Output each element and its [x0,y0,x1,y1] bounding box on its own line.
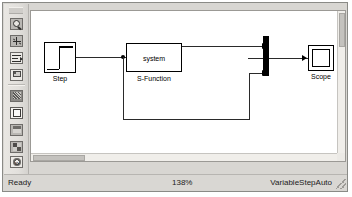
horizontal-scrollbar[interactable] [31,153,338,161]
vertical-scrollbar[interactable] [337,11,345,154]
toolbar-button-library-browser[interactable] [8,88,25,103]
toolbar-button-model-explorer[interactable] [8,67,25,82]
signal-feedback-across [123,119,250,120]
step-waveform-icon [45,43,75,72]
block-mux[interactable] [263,36,269,76]
toolbar-button-new-model[interactable] [8,105,25,120]
signal-mux-to-scope [248,58,308,59]
signal-step-to-junction [76,57,123,58]
alignment-icon [10,52,23,64]
zoom-level-text[interactable]: 138% [172,177,192,189]
block-label-scope: Scope [305,73,337,80]
scope-screen-icon [312,49,330,67]
block-parameters-icon [10,141,23,153]
arrowhead-scope-in [302,55,307,61]
window-frame: » [2,2,348,192]
block-s-function-text: system [127,54,181,61]
toolbar-separator [8,84,25,86]
signal-feedback-up [249,73,250,119]
toolbar-overflow-chevron[interactable]: » [8,156,25,171]
vertical-scrollbar-thumb[interactable] [339,13,345,47]
model-explorer-icon [10,69,23,81]
zoom-icon [10,18,23,30]
signal-sfunction-to-mux [182,46,263,47]
scrollbar-corner [337,153,345,161]
fit-to-view-icon [10,35,23,47]
snapshot-icon [10,124,23,136]
resize-grip[interactable] [336,179,346,189]
status-bar: Ready 138% VariableStepAuto [4,174,348,190]
simulink-model-window: » [0,0,352,197]
toolbar-button-zoom[interactable] [8,16,25,31]
toolbar-button-snapshot[interactable] [8,122,25,137]
solver-text[interactable]: VariableStepAuto [270,177,332,189]
block-scope[interactable] [308,45,334,71]
toolbar-button-fit-to-view[interactable] [8,33,25,48]
toolbar-button-alignment[interactable] [8,50,25,65]
library-browser-icon [10,90,23,102]
signal-feedback-down [123,57,124,119]
model-canvas-area: Step system S-Function Scope [30,10,346,162]
block-step[interactable] [44,42,76,73]
status-text: Ready [8,177,31,189]
block-s-function[interactable]: system [126,43,182,72]
left-toolbar: » [4,4,29,174]
horizontal-scrollbar-thumb[interactable] [33,155,85,161]
block-label-s-function: S-Function [119,75,189,82]
model-canvas[interactable]: Step system S-Function Scope [31,11,338,154]
toolbar-button-block-parameters[interactable] [8,139,25,154]
toolbar-grip[interactable] [9,7,23,14]
new-model-icon [10,107,23,119]
signal-feedback-to-mux [249,73,263,74]
block-label-step: Step [44,75,76,82]
